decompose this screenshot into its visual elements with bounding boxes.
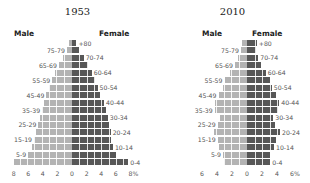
- age-group-label: 65-69: [215, 62, 233, 69]
- female-bar: [247, 85, 272, 92]
- age-group-label: +80: [78, 40, 91, 47]
- male-bar: [219, 92, 248, 99]
- age-group-label: 20-24: [282, 129, 300, 136]
- male-bar: [32, 144, 72, 151]
- age-group-label: 75-79: [47, 47, 65, 54]
- female-bar: [247, 55, 258, 62]
- age-group-label: 20-24: [113, 129, 131, 136]
- male-bar: [40, 115, 72, 122]
- age-group-label: 0-4: [130, 159, 140, 166]
- age-group-label: 30-34: [110, 114, 128, 121]
- pyramid-1953: 1953 Male Female +8075-7970-7465-6960-64…: [0, 0, 155, 183]
- x-tick-label: 2: [230, 170, 234, 177]
- x-tick-label: 0: [70, 170, 74, 177]
- female-bar: [72, 70, 92, 77]
- male-bar: [14, 159, 72, 166]
- chart-title: 1953: [0, 6, 155, 17]
- female-label: Female: [252, 29, 282, 38]
- age-group-label: 15-19: [14, 136, 32, 143]
- female-bar: [72, 55, 84, 62]
- male-bar: [46, 92, 72, 99]
- female-bar: [72, 159, 128, 166]
- female-bar: [72, 40, 76, 47]
- male-bar: [238, 55, 247, 62]
- male-bar: [63, 55, 72, 62]
- female-bar: [72, 62, 88, 69]
- age-group-label: 10-14: [115, 144, 133, 151]
- x-tick-label: 8%: [128, 170, 138, 177]
- female-bar: [72, 47, 79, 54]
- x-tick-label: 4: [275, 170, 279, 177]
- x-tick-label: 6: [114, 170, 118, 177]
- pyramid-2010: 2010 Male Female +8075-7970-7465-6960-64…: [155, 0, 310, 183]
- chart-title: 2010: [155, 6, 310, 17]
- male-bar: [34, 137, 72, 144]
- x-tick-label: 6: [26, 170, 30, 177]
- male-bar: [59, 62, 72, 69]
- female-bar: [247, 129, 280, 136]
- age-group-label: 70-74: [86, 54, 104, 61]
- male-bar: [55, 70, 72, 77]
- age-group-label: 40-44: [281, 99, 299, 106]
- male-bar: [223, 85, 247, 92]
- age-group-label: 25-29: [198, 121, 216, 128]
- age-group-label: 45-49: [26, 92, 44, 99]
- x-tick-label: 4: [99, 170, 103, 177]
- male-bar: [36, 129, 72, 136]
- age-group-label: 15-19: [198, 136, 216, 143]
- male-bar: [215, 100, 247, 107]
- x-tick-label: 8: [12, 170, 16, 177]
- female-bar: [72, 152, 116, 159]
- x-tick-label: 2: [85, 170, 89, 177]
- female-bar: [247, 159, 270, 166]
- female-bar: [247, 144, 274, 151]
- female-bar: [247, 137, 276, 144]
- x-tick-label: 2: [260, 170, 264, 177]
- male-bar: [28, 152, 72, 159]
- female-bar: [247, 152, 270, 159]
- female-bar: [72, 115, 108, 122]
- male-bar: [235, 62, 247, 69]
- female-bar: [247, 107, 278, 114]
- age-group-label: 35-39: [195, 107, 213, 114]
- female-bar: [247, 100, 279, 107]
- male-bar: [224, 159, 247, 166]
- age-group-label: 65-69: [39, 62, 57, 69]
- male-bar: [219, 144, 247, 151]
- female-bar: [247, 47, 256, 54]
- age-group-label: 0-4: [272, 159, 282, 166]
- age-group-label: 75-79: [221, 47, 239, 54]
- age-group-label: 50-54: [274, 84, 292, 91]
- male-label: Male: [202, 29, 222, 38]
- female-bar: [247, 70, 266, 77]
- female-bar: [247, 62, 261, 69]
- age-group-label: 10-14: [276, 144, 294, 151]
- age-group-label: 60-64: [268, 69, 286, 76]
- male-bar: [214, 129, 247, 136]
- x-tick-label: 6%: [290, 170, 300, 177]
- x-tick-label: 0: [245, 170, 249, 177]
- male-bar: [44, 100, 72, 107]
- male-bar: [42, 107, 72, 114]
- age-group-label: 35-39: [22, 107, 40, 114]
- female-bar: [247, 77, 270, 84]
- female-bar: [72, 85, 98, 92]
- male-bar: [223, 152, 247, 159]
- age-group-label: 40-44: [106, 99, 124, 106]
- female-bar: [72, 100, 104, 107]
- age-group-label: 5-9: [16, 151, 26, 158]
- age-group-label: 30-34: [275, 114, 293, 121]
- male-bar: [49, 85, 72, 92]
- female-bar: [72, 107, 106, 114]
- age-group-label: 55-59: [32, 77, 50, 84]
- male-bar: [52, 77, 72, 84]
- age-group-label: +80: [259, 40, 272, 47]
- age-group-label: 5-9: [211, 151, 221, 158]
- male-bar: [218, 122, 247, 129]
- x-tick-label: 6: [200, 170, 204, 177]
- female-bar: [247, 122, 275, 129]
- x-tick-label: 4: [41, 170, 45, 177]
- x-tick-label: 2: [55, 170, 59, 177]
- male-bar: [215, 107, 247, 114]
- age-group-label: 60-64: [94, 69, 112, 76]
